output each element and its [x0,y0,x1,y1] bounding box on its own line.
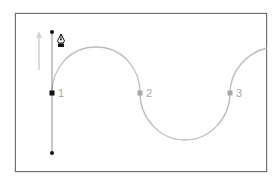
anchor-label-2: 2 [146,88,152,99]
bezier-path[interactable] [52,47,267,140]
handle-point-top[interactable] [50,30,54,34]
direction-arrow-icon [36,31,42,70]
pen-tool-icon [58,34,65,47]
anchor-point-1[interactable] [50,91,55,96]
anchor-point-3[interactable] [228,91,233,96]
anchor-label-3: 3 [236,88,242,99]
diagram-canvas: 1 2 3 [0,0,280,182]
handle-point-bottom[interactable] [50,151,54,155]
anchor-point-2[interactable] [138,91,143,96]
anchor-label-1: 1 [58,88,64,99]
